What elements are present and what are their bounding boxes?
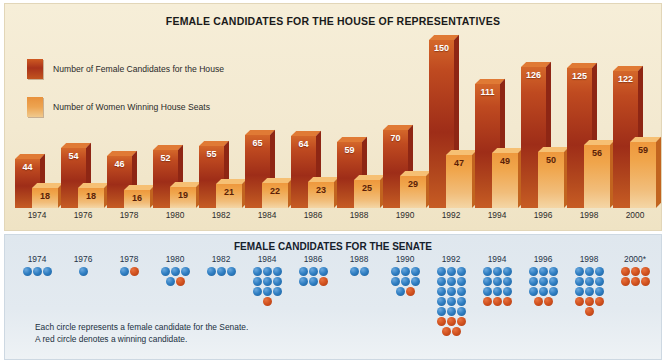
senate-candidate-dot-icon [171,267,180,276]
house-winners-value: 18 [32,191,58,201]
senate-candidate-dot-icon [273,287,282,296]
house-year-label: 1988 [337,210,381,220]
house-candidates-value: 70 [383,133,408,143]
senate-year-column: 1984 [245,253,289,306]
senate-year-label: 1974 [15,253,59,265]
house-year-label: 1980 [153,210,197,220]
senate-dot-row [529,267,558,276]
senate-dot-row [391,267,420,276]
house-winners-bar: 21 [216,184,242,208]
senate-dot-row [483,267,512,276]
house-year-label: 1974 [15,210,59,220]
senate-candidate-dot-icon [437,267,446,276]
senate-year-label: 1976 [61,253,105,265]
house-winners-bar: 50 [538,152,564,208]
senate-candidate-dot-icon [549,267,558,276]
house-winners-bar: 49 [492,153,518,208]
house-winners-value: 23 [308,185,334,195]
house-winners-bar: 23 [308,182,334,208]
senate-candidate-dot-icon [595,267,604,276]
senate-year-label: 1988 [337,253,381,265]
senate-candidate-dot-icon [529,267,538,276]
senate-candidate-dot-icon [585,277,594,286]
senate-dot-row [529,287,558,296]
senate-dot-row [483,277,512,286]
senate-winner-dot-icon [534,297,543,306]
senate-dot-grid [383,265,427,296]
senate-dot-row [483,287,512,296]
senate-winner-dot-icon [631,277,640,286]
senate-candidate-dot-icon [503,277,512,286]
senate-dot-grid [613,265,657,286]
house-year-label: 1982 [199,210,243,220]
senate-winner-dot-icon [585,307,594,316]
senate-winner-dot-icon [406,287,415,296]
senate-dot-row [79,267,88,276]
senate-year-column: 1988 [337,253,381,276]
house-winners-value: 50 [538,155,564,165]
senate-year-column: 1978 [107,253,151,276]
house-year-label: 1986 [291,210,335,220]
senate-candidate-dot-icon [539,267,548,276]
house-candidates-value: 54 [61,151,86,161]
senate-dot-row [483,297,512,306]
senate-candidate-dot-icon [457,307,466,316]
senate-dot-row [575,287,604,296]
senate-candidate-dot-icon [437,307,446,316]
senate-footnote-line2: A red circle denotes a winning candidate… [35,333,248,345]
senate-winner-dot-icon [176,277,185,286]
senate-year-column: 1996 [521,253,565,306]
senate-year-column: 1994 [475,253,519,306]
senate-dot-row [253,287,282,296]
senate-candidate-dot-icon [437,277,446,286]
senate-candidate-dot-icon [120,267,129,276]
house-year-label: 1990 [383,210,427,220]
senate-dot-grid [429,265,473,336]
senate-year-label: 1980 [153,253,197,265]
senate-candidate-dot-icon [161,267,170,276]
senate-candidate-dot-icon [43,267,52,276]
senate-candidate-dot-icon [457,267,466,276]
senate-dot-row [437,307,466,316]
house-winners-value: 47 [446,158,472,168]
senate-candidate-dot-icon [549,287,558,296]
senate-winner-dot-icon [631,267,640,276]
senate-candidate-dot-icon [447,277,456,286]
house-year-label: 1976 [61,210,105,220]
senate-dot-row [585,307,594,316]
senate-candidate-dot-icon [391,277,400,286]
senate-candidate-dot-icon [273,267,282,276]
senate-candidate-dot-icon [447,307,456,316]
senate-dot-row [575,267,604,276]
senate-dot-row [621,267,650,276]
senate-candidate-dot-icon [483,267,492,276]
senate-candidate-dot-icon [411,267,420,276]
senate-candidate-dot-icon [575,267,584,276]
senate-candidate-dot-icon [217,267,226,276]
senate-year-column: 1986 [291,253,335,286]
senate-candidate-dot-icon [227,267,236,276]
senate-candidate-dot-icon [166,277,175,286]
house-candidates-value: 126 [521,70,546,80]
senate-candidate-dot-icon [539,277,548,286]
senate-dot-row [253,277,282,286]
house-year-label: 1994 [475,210,519,220]
senate-candidate-dot-icon [401,277,410,286]
senate-dot-grid [337,265,381,276]
senate-winner-dot-icon [483,297,492,306]
senate-dot-row [437,277,466,286]
senate-candidate-dot-icon [483,277,492,286]
senate-dot-row [396,287,415,296]
house-candidates-value: 65 [245,138,270,148]
senate-dot-row [391,277,420,286]
senate-year-label: 1984 [245,253,289,265]
house-candidates-value: 64 [291,139,316,149]
senate-winner-dot-icon [452,327,461,336]
senate-candidate-dot-icon [391,267,400,276]
house-year-label: 1998 [567,210,611,220]
senate-dot-row [166,277,185,286]
house-winners-bar: 56 [584,145,610,208]
senate-winner-dot-icon [130,267,139,276]
senate-candidate-dot-icon [411,277,420,286]
senate-winner-dot-icon [457,317,466,326]
